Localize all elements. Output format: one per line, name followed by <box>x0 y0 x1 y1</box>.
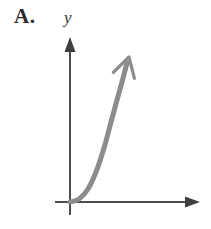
data-curve <box>70 63 127 202</box>
figure-panel-a: A. y <box>0 0 211 229</box>
panel-label: A. <box>14 6 35 27</box>
y-axis-label: y <box>64 9 72 26</box>
graph-canvas <box>0 0 211 229</box>
y-axis-arrowhead-icon <box>65 37 76 52</box>
x-axis-arrowhead-icon <box>185 197 200 208</box>
